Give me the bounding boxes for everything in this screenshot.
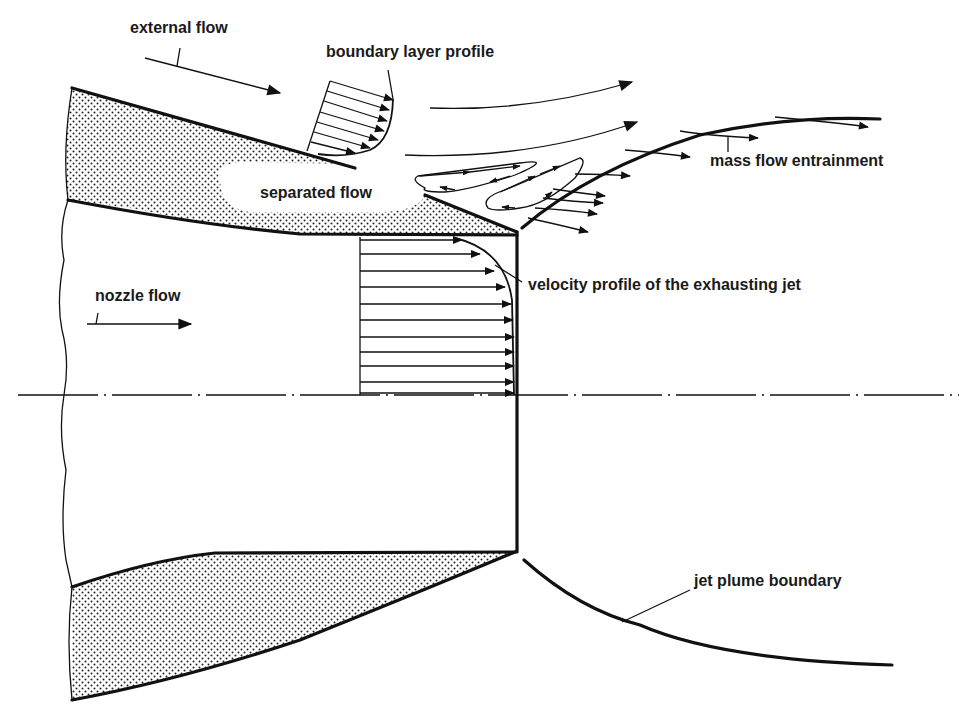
label-boundary-layer-profile: boundary layer profile: [326, 43, 494, 60]
lower-nozzle-wall: [69, 552, 515, 700]
external-streamlines: [405, 82, 637, 156]
label-velocity-profile: velocity profile of the exhausting jet: [528, 276, 802, 293]
jet-velocity-profile: [360, 237, 522, 395]
label-mass-flow-entrainment: mass flow entrainment: [710, 152, 884, 169]
nozzle-flow-diagram: external flow boundary layer profile sep…: [0, 0, 959, 718]
nozzle-flow-arrow: [87, 313, 191, 324]
cut-line: [59, 200, 72, 587]
label-nozzle-flow: nozzle flow: [95, 287, 181, 304]
shear-layer: [522, 117, 880, 232]
label-external-flow: external flow: [130, 19, 228, 36]
label-jet-plume-boundary: jet plume boundary: [693, 572, 842, 589]
boundary-layer-profile: [307, 70, 393, 155]
label-separated-flow: separated flow: [260, 184, 373, 201]
upper-nozzle-wall: [66, 88, 517, 236]
external-flow-arrow: [145, 48, 280, 93]
